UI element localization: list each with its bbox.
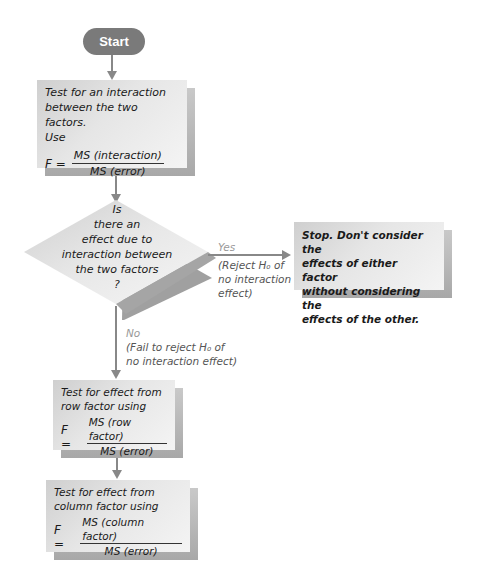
interaction-test-line-1: Test for an interaction [45,85,179,100]
arrowhead-icon [107,71,117,80]
column-test-box: Test for effect from column factor using… [46,480,190,552]
no-note-line-2: no interaction effect) [126,354,237,368]
decision-line-5: the two factors [48,262,186,277]
formula-lhs: F = [54,523,74,551]
stop-line-4: effects of the other. [302,312,436,326]
yes-label-group: Yes (Reject H₀ of no interaction effect) [218,240,291,300]
stop-box: Stop. Don't consider the effects of eith… [294,222,444,290]
formula-lhs: F = [61,423,81,451]
formula-fraction: MS (row factor) MS (error) [87,415,167,459]
formula-numerator: MS (interaction) [72,149,164,164]
decision-line-1: Is [48,202,186,217]
connector-no [115,306,117,372]
stop-line-2: effects of either factor [302,256,436,284]
arrowhead-icon [111,370,121,379]
row-test-box: Test for effect from row factor using F … [53,380,175,450]
row-test-line-1: Test for effect from [61,385,167,399]
stop-line-3: without considering the [302,284,436,312]
interaction-test-line-3: Use [45,130,179,145]
formula-fraction: MS (interaction) MS (error) [72,149,164,179]
yes-label: Yes [218,240,291,254]
formula-denominator: MS (error) [105,544,158,559]
column-test-line-1: Test for effect from [54,485,182,499]
row-formula: F = MS (row factor) MS (error) [61,415,167,459]
formula-lhs: F = [45,157,66,172]
decision-line-3: effect due to [48,232,186,247]
stop-line-1: Stop. Don't consider the [302,228,436,256]
decision-line-4: interaction between [48,247,186,262]
column-formula: F = MS (column factor) MS (error) [54,515,182,559]
formula-denominator: MS (error) [100,444,153,459]
decision-line-6: ? [48,277,186,292]
box-face: Test for an interaction between the two … [37,80,187,168]
arrowhead-icon [112,470,122,479]
interaction-test-line-2: between the two factors. [45,100,179,130]
no-label: No [126,326,237,340]
row-test-line-2: row factor using [61,399,167,413]
connector-interaction-to-decision [115,176,117,196]
no-note-line-1: (Fail to reject H₀ of [126,340,237,354]
no-label-group: No (Fail to reject H₀ of no interaction … [126,326,237,368]
interaction-test-box: Test for an interaction between the two … [37,80,187,168]
interaction-formula: F = MS (interaction) MS (error) [45,149,179,179]
box-face: Stop. Don't consider the effects of eith… [294,222,444,290]
decision-text: Is there an effect due to interaction be… [48,202,186,292]
start-terminal: Start [83,28,145,55]
start-label: Start [99,34,129,49]
decision-line-2: there an [48,217,186,232]
formula-denominator: MS (error) [90,164,146,179]
box-face: Test for effect from row factor using F … [53,380,175,450]
column-test-line-2: column factor using [54,499,182,513]
formula-fraction: MS (column factor) MS (error) [80,515,182,559]
yes-note-line-2: no interaction [218,272,291,286]
yes-note-line-1: (Reject H₀ of [218,258,291,272]
box-face: Test for effect from column factor using… [46,480,190,552]
formula-numerator: MS (column factor) [80,515,182,544]
yes-note-line-3: effect) [218,286,291,300]
formula-numerator: MS (row factor) [87,415,167,444]
